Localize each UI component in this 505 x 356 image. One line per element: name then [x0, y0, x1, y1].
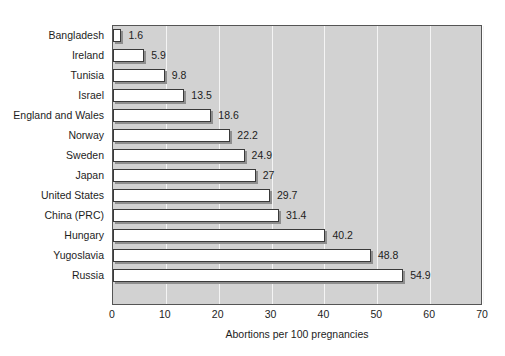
bar — [113, 249, 371, 262]
category-label: England and Wales — [13, 105, 104, 125]
bar-value-label: 54.9 — [410, 269, 430, 282]
category-label: Hungary — [64, 225, 104, 245]
x-tick-label: 0 — [109, 308, 115, 320]
x-tick-label: 70 — [476, 308, 488, 320]
bar-value-label: 27 — [263, 169, 275, 182]
category-label: Norway — [68, 125, 104, 145]
x-axis-title: Abortions per 100 pregnancies — [112, 328, 482, 340]
bar-row: 5.9 — [113, 46, 481, 66]
x-axis-ticks: 010203040506070 — [112, 308, 482, 324]
x-tick-label: 40 — [318, 308, 330, 320]
plot-area: 1.65.99.813.518.622.224.92729.731.440.24… — [112, 25, 482, 305]
category-axis: BangladeshIrelandTunisiaIsraelEngland an… — [0, 25, 108, 305]
bar-row: 54.9 — [113, 266, 481, 286]
bar — [113, 49, 144, 62]
category-label: Bangladesh — [49, 25, 104, 45]
bar — [113, 189, 270, 202]
bar — [113, 69, 165, 82]
category-label: China (PRC) — [44, 205, 104, 225]
bar-row: 48.8 — [113, 246, 481, 266]
bar-value-label: 22.2 — [237, 129, 257, 142]
bar-chart-figure: BangladeshIrelandTunisiaIsraelEngland an… — [0, 0, 505, 356]
category-label: Russia — [72, 265, 104, 285]
bar-value-label: 9.8 — [172, 69, 187, 82]
category-label: Sweden — [66, 145, 104, 165]
x-tick-label: 50 — [370, 308, 382, 320]
gridline-70 — [483, 26, 484, 304]
bar — [113, 269, 403, 282]
bar-value-label: 5.9 — [151, 49, 166, 62]
category-label: United States — [41, 185, 104, 205]
bar-value-label: 13.5 — [191, 89, 211, 102]
bar — [113, 169, 256, 182]
bar-row: 29.7 — [113, 186, 481, 206]
bar-value-label: 18.6 — [218, 109, 238, 122]
bar-row: 1.6 — [113, 26, 481, 46]
category-label: Japan — [75, 165, 104, 185]
bar-row: 13.5 — [113, 86, 481, 106]
bar-value-label: 40.2 — [332, 229, 352, 242]
bar — [113, 89, 184, 102]
bar-value-label: 29.7 — [277, 189, 297, 202]
category-label: Israel — [78, 85, 104, 105]
x-tick-label: 30 — [265, 308, 277, 320]
bar-row: 18.6 — [113, 106, 481, 126]
bar-row: 31.4 — [113, 206, 481, 226]
bar — [113, 209, 279, 222]
x-tick-label: 10 — [159, 308, 171, 320]
bar — [113, 129, 230, 142]
bar-value-label: 24.9 — [252, 149, 272, 162]
bar-row: 24.9 — [113, 146, 481, 166]
x-tick-label: 60 — [423, 308, 435, 320]
bar — [113, 229, 325, 242]
bar-row: 27 — [113, 166, 481, 186]
category-label: Tunisia — [71, 65, 104, 85]
x-tick-label: 20 — [212, 308, 224, 320]
bar-value-label: 48.8 — [378, 249, 398, 262]
bars-layer: 1.65.99.813.518.622.224.92729.731.440.24… — [113, 26, 481, 304]
bar-value-label: 31.4 — [286, 209, 306, 222]
bar — [113, 29, 121, 42]
bar-value-label: 1.6 — [128, 29, 143, 42]
bar — [113, 109, 211, 122]
bar-row: 9.8 — [113, 66, 481, 86]
category-label: Ireland — [72, 45, 104, 65]
bar-row: 22.2 — [113, 126, 481, 146]
category-label: Yugoslavia — [53, 245, 104, 265]
bar — [113, 149, 245, 162]
bar-row: 40.2 — [113, 226, 481, 246]
